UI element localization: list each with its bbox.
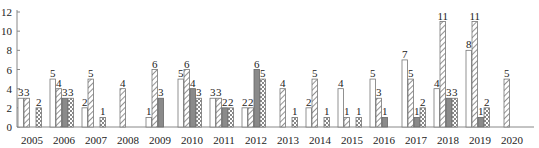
bar xyxy=(68,98,74,127)
bar xyxy=(146,117,152,127)
bar-value-label: 7 xyxy=(402,48,408,60)
bar xyxy=(190,89,196,127)
bar-value-label: 4 xyxy=(338,77,344,89)
bar xyxy=(376,98,382,127)
x-tick-label: 2008 xyxy=(117,134,140,146)
bar-value-label: 3 xyxy=(376,86,382,98)
bar xyxy=(356,117,362,127)
bar-value-label: 1 xyxy=(146,105,152,117)
bar-value-label: 5 xyxy=(312,67,318,79)
bar-value-label: 2 xyxy=(306,96,312,108)
bar xyxy=(472,22,478,127)
bar-value-label: 3 xyxy=(452,86,458,98)
y-tick-label: 0 xyxy=(7,121,13,133)
bar-value-label: 2 xyxy=(484,96,490,108)
bar-value-label: 1 xyxy=(344,105,350,117)
y-tick-label: 8 xyxy=(7,44,13,56)
bar xyxy=(184,70,190,128)
bar xyxy=(196,98,202,127)
bar xyxy=(222,108,228,127)
bar-value-label: 1 xyxy=(292,105,298,117)
bar xyxy=(36,108,42,127)
x-axis: 2005200620072008200920102011201220132014… xyxy=(17,127,534,146)
bar xyxy=(338,89,344,127)
bar xyxy=(446,98,452,127)
bar-value-label: 1 xyxy=(100,105,106,117)
x-tick-label: 2016 xyxy=(373,134,396,146)
y-tick-label: 6 xyxy=(7,64,13,76)
bar xyxy=(228,108,234,127)
x-tick-label: 2014 xyxy=(309,134,332,146)
bar-value-label: 3 xyxy=(158,86,164,98)
bar xyxy=(260,79,266,127)
x-tick-label: 2005 xyxy=(21,134,44,146)
bar xyxy=(452,98,458,127)
bar-value-label: 4 xyxy=(280,77,286,89)
bar xyxy=(478,117,484,127)
bar xyxy=(210,98,216,127)
bar xyxy=(440,22,446,127)
bar-value-label: 11 xyxy=(469,10,480,22)
bar xyxy=(62,98,68,127)
bar xyxy=(88,79,94,127)
y-tick-label: 12 xyxy=(1,6,12,18)
bar xyxy=(344,117,350,127)
x-tick-label: 2012 xyxy=(245,134,267,146)
bar-value-label: 5 xyxy=(370,67,376,79)
x-tick-label: 2020 xyxy=(501,134,524,146)
bar-value-label: 2 xyxy=(242,96,248,108)
bar xyxy=(254,70,260,128)
x-tick-label: 2011 xyxy=(213,134,235,146)
bar xyxy=(178,79,184,127)
bar-value-label: 2 xyxy=(228,96,234,108)
bar-chart: 024681012 200520062007200820092010201120… xyxy=(0,0,539,148)
bar xyxy=(18,98,24,127)
bar xyxy=(216,98,222,127)
x-tick-label: 2019 xyxy=(469,134,492,146)
x-tick-label: 2013 xyxy=(277,134,300,146)
bar xyxy=(402,60,408,127)
bar-value-label: 5 xyxy=(504,67,510,79)
bar xyxy=(484,108,490,127)
bar xyxy=(242,108,248,127)
bar xyxy=(50,79,56,127)
y-tick-label: 10 xyxy=(1,25,13,37)
bar xyxy=(434,89,440,127)
bar-value-label: 6 xyxy=(184,58,190,70)
bar xyxy=(292,117,298,127)
bar-value-label: 2 xyxy=(420,96,426,108)
bar xyxy=(370,79,376,127)
bar-value-label: 3 xyxy=(68,86,74,98)
bar xyxy=(324,117,330,127)
bar xyxy=(158,98,164,127)
bar xyxy=(414,117,420,127)
x-tick-label: 2010 xyxy=(181,134,204,146)
bar xyxy=(120,89,126,127)
bar-value-label: 5 xyxy=(260,67,266,79)
bar xyxy=(24,98,30,127)
bar-value-label: 11 xyxy=(437,10,448,22)
bar xyxy=(100,117,106,127)
bar xyxy=(152,70,158,128)
bar-value-label: 1 xyxy=(478,105,484,117)
y-tick-label: 2 xyxy=(7,102,13,114)
bar-value-label: 1 xyxy=(414,105,420,117)
y-axis: 024681012 xyxy=(1,6,20,133)
bar-value-label: 1 xyxy=(356,105,362,117)
bar xyxy=(312,79,318,127)
bar xyxy=(408,79,414,127)
bar xyxy=(504,79,510,127)
bar xyxy=(306,108,312,127)
bar-value-label: 6 xyxy=(152,58,158,70)
bar-value-label: 5 xyxy=(88,67,94,79)
bar xyxy=(420,108,426,127)
bar-value-label: 3 xyxy=(24,86,30,98)
bar xyxy=(466,50,472,127)
x-tick-label: 2006 xyxy=(53,134,76,146)
bar xyxy=(56,89,62,127)
bar xyxy=(382,117,388,127)
bar-value-label: 2 xyxy=(248,96,254,108)
x-tick-label: 2015 xyxy=(341,134,364,146)
bar-value-label: 3 xyxy=(196,86,202,98)
y-tick-label: 4 xyxy=(7,83,13,95)
